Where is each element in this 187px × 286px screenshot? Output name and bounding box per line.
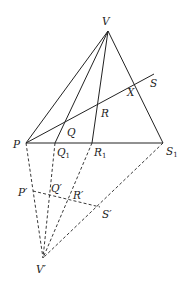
label-Q-prime: Q′ <box>51 182 63 195</box>
label-P-prime: P′ <box>17 186 28 198</box>
label-S: S <box>150 77 157 89</box>
label-P: P <box>12 138 21 150</box>
label-X: X <box>126 86 135 98</box>
dashed-PV' <box>26 143 43 258</box>
line-PS <box>26 74 154 143</box>
label-Q: Q <box>67 126 76 139</box>
label-V-prime: V′ <box>36 263 47 275</box>
label-V: V <box>102 15 111 27</box>
label-R1: R1 <box>93 146 106 160</box>
label-Q1: Q1 <box>57 146 70 160</box>
dashed-R1V' <box>43 143 92 258</box>
label-R: R <box>100 107 109 119</box>
label-R-prime: R′ <box>72 189 84 201</box>
label-S-prime: S′ <box>102 208 112 220</box>
dashed-S1V' <box>43 143 163 258</box>
dashed-Q1V' <box>43 143 55 258</box>
label-S1: S1 <box>166 145 178 159</box>
perspective-diagram: V S X R Q P Q1 R1 S1 P′ Q′ R′ S′ V′ <box>0 0 187 286</box>
dashed-P'S' <box>33 191 100 207</box>
